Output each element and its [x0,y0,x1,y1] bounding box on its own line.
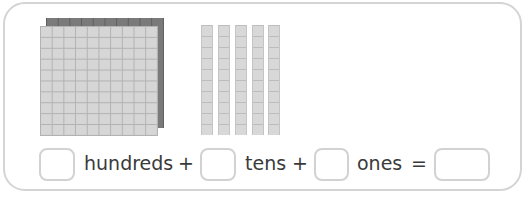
hundreds-label: hundreds [84,151,173,175]
plus-sign: + [178,151,194,175]
hundreds-flat-face [40,26,158,136]
hundreds-answer-box[interactable] [39,148,75,181]
tens-label: tens [245,151,286,175]
ones-label: ones [357,151,402,175]
ones-answer-box[interactable] [314,148,349,181]
tens-rod [268,25,280,135]
tens-rod [235,25,247,135]
tens-rod [218,25,230,135]
plus-sign: + [292,151,308,175]
equals-sign: = [411,151,427,175]
tens-rod [252,25,264,135]
tens-rod [201,25,213,135]
total-answer-box[interactable] [434,148,490,181]
tens-answer-box[interactable] [200,148,236,181]
